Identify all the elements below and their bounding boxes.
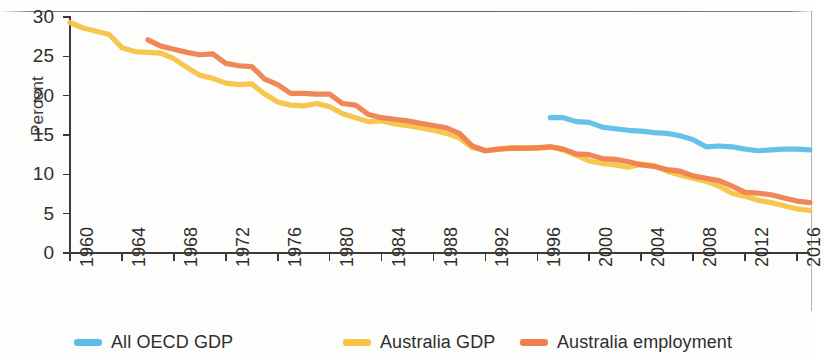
legend-label: Australia employment	[557, 332, 732, 353]
legend-label: All OECD GDP	[111, 332, 233, 353]
legend-item-australia-employment[interactable]: Australia employment	[520, 332, 732, 353]
legend-swatch-icon	[343, 339, 371, 346]
chart-series-layer	[70, 23, 810, 211]
series-line-all-oecd-gdp	[550, 118, 810, 151]
legend-label: Australia GDP	[380, 332, 495, 353]
chart-axes	[63, 16, 810, 261]
legend-item-all-oecd-gdp[interactable]: All OECD GDP	[74, 332, 233, 353]
legend-swatch-icon	[520, 339, 548, 346]
series-line-australia-employment	[148, 40, 810, 203]
legend-item-australia-gdp[interactable]: Australia GDP	[343, 332, 495, 353]
chart-legend: All OECD GDPAustralia GDPAustralia emplo…	[0, 326, 814, 359]
legend-swatch-icon	[74, 339, 102, 346]
